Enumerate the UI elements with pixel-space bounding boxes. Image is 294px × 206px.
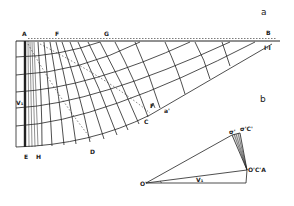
part-b-label: b	[260, 95, 266, 104]
label-V1: V₁	[16, 100, 23, 106]
label-C: C	[144, 119, 148, 125]
label-a-prime: a'	[164, 108, 170, 114]
diagonal-line-CB	[150, 44, 272, 115]
label-O-prime: O'	[140, 181, 147, 187]
label-G: G	[104, 31, 109, 37]
label-B: B	[266, 30, 271, 36]
label-F: F	[55, 31, 59, 37]
bottom-arc-EC	[16, 115, 150, 147]
label-sigma-C: σ'C'	[240, 126, 253, 132]
label-sigma: σ'	[229, 129, 236, 135]
label-O-C-A: O'C'A	[248, 167, 266, 173]
hodograph-line-to-sigma	[146, 135, 232, 183]
label-D: D	[90, 149, 95, 155]
label-E: E	[24, 154, 28, 160]
label-hodograph-V1: V₁	[196, 177, 203, 183]
label-H: H	[36, 154, 41, 160]
label-II: I·I	[264, 45, 271, 51]
label-A: A	[22, 31, 27, 37]
slip-line-field-diagram	[0, 0, 294, 206]
part-a-label: a	[261, 8, 267, 17]
label-F2: F	[150, 103, 154, 109]
